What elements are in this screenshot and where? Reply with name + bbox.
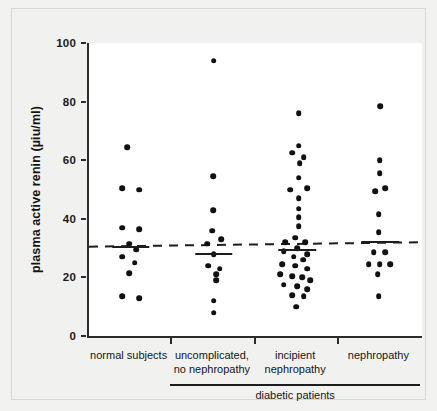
data-point <box>377 261 383 267</box>
data-point <box>136 226 142 232</box>
data-point <box>209 228 215 234</box>
figure-panel: plasma active renin (µiu/ml) 02040608010… <box>11 8 426 400</box>
data-point <box>204 241 210 247</box>
data-point <box>304 185 310 191</box>
y-axis-tick-mark <box>81 42 86 44</box>
y-axis-tick-label: 100 <box>56 37 76 49</box>
data-point <box>375 272 381 278</box>
data-point <box>279 261 285 267</box>
data-point <box>289 292 295 298</box>
data-point <box>120 254 126 260</box>
data-point <box>210 207 216 213</box>
y-axis-tick-mark <box>81 101 86 103</box>
x-axis-category-label: nephropathy <box>324 349 433 363</box>
data-point <box>297 160 303 166</box>
data-point <box>296 175 302 181</box>
data-point <box>136 187 142 193</box>
data-point <box>283 239 289 245</box>
data-point <box>126 270 132 276</box>
data-point <box>376 294 382 300</box>
data-point <box>388 261 394 267</box>
data-point <box>281 282 287 288</box>
data-point <box>214 272 220 278</box>
data-point <box>293 263 299 269</box>
data-point <box>136 295 142 301</box>
y-axis-tick-mark <box>81 335 86 337</box>
group-bracket-line <box>170 384 420 386</box>
data-point <box>376 229 382 235</box>
data-point <box>373 188 379 194</box>
figure-scatter-plot: plasma active renin (µiu/ml) 02040608010… <box>0 0 437 411</box>
data-point <box>366 261 372 267</box>
median-line <box>362 241 399 243</box>
plot-area <box>87 43 422 338</box>
data-point <box>120 185 126 191</box>
data-point <box>120 225 126 231</box>
data-point <box>296 195 302 201</box>
x-axis-tick-mark <box>170 338 172 344</box>
median-line <box>195 253 232 255</box>
data-point <box>296 223 302 229</box>
data-point <box>303 239 309 245</box>
data-point <box>299 275 305 281</box>
data-point <box>214 278 220 284</box>
data-point <box>301 154 307 160</box>
y-axis-tick-label: 0 <box>69 330 76 342</box>
data-point <box>291 254 297 260</box>
data-point <box>210 174 216 180</box>
data-point <box>371 250 377 256</box>
data-point <box>301 294 307 300</box>
y-axis-tick-mark <box>81 159 86 161</box>
data-point <box>217 266 223 272</box>
data-point <box>304 286 310 292</box>
data-point <box>219 237 225 243</box>
data-point <box>293 304 299 310</box>
data-point <box>132 260 138 266</box>
y-axis-tick-mark <box>81 218 86 220</box>
data-point <box>211 310 217 316</box>
data-point <box>296 206 302 212</box>
data-point <box>296 111 302 117</box>
y-axis-tick-label: 20 <box>63 271 76 283</box>
data-point <box>120 294 126 300</box>
data-point <box>124 144 130 150</box>
data-point <box>383 250 389 256</box>
y-axis-tick-label: 80 <box>63 96 76 108</box>
data-point <box>296 143 302 149</box>
y-axis-label: plasma active renin (µiu/ml) <box>25 43 47 336</box>
data-point <box>377 171 383 177</box>
data-point <box>304 251 310 257</box>
data-point <box>294 283 300 289</box>
data-point <box>300 257 306 263</box>
x-axis-tick-mark <box>337 338 339 344</box>
data-point <box>288 187 294 193</box>
data-point <box>205 263 211 269</box>
median-line <box>112 246 149 248</box>
data-point <box>278 272 284 278</box>
data-point <box>293 235 299 241</box>
y-axis-tick-label: 60 <box>63 154 76 166</box>
data-point <box>308 278 314 284</box>
data-point <box>289 273 295 279</box>
data-point <box>378 103 384 109</box>
data-point <box>211 58 217 64</box>
data-point <box>383 185 389 191</box>
data-point <box>289 150 295 156</box>
group-bracket-label: diabetic patients <box>255 389 335 401</box>
data-point <box>211 298 217 304</box>
data-point <box>304 266 310 272</box>
median-line <box>278 249 315 251</box>
y-axis-tick-mark <box>81 276 86 278</box>
x-axis-tick-mark <box>254 338 256 344</box>
data-point <box>376 212 382 218</box>
data-point <box>296 215 302 221</box>
data-point <box>377 157 383 163</box>
y-axis-tick-label: 40 <box>63 213 76 225</box>
